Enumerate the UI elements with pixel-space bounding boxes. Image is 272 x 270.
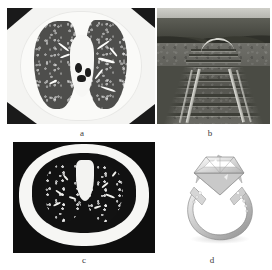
thorax-outline <box>19 144 150 246</box>
ct-corner-bottom-right <box>129 104 155 124</box>
lung-field-background <box>32 153 137 233</box>
ct-corner-top-right <box>131 8 155 28</box>
airway-bronchus-2 <box>85 68 92 77</box>
panel-label-b: b <box>188 128 232 138</box>
pave-stone <box>196 196 199 199</box>
airway-bronchus-3 <box>77 75 85 83</box>
panel-d-ring-photo <box>172 143 268 253</box>
diamond-ring-illustration <box>172 143 268 253</box>
ct-corner-bottom-left <box>7 102 37 124</box>
airway-bronchus-1 <box>75 63 82 73</box>
panel-label-c: c <box>62 255 106 265</box>
pave-stone <box>199 192 202 195</box>
pave-stone <box>246 210 248 212</box>
rail-sleeper <box>189 54 239 56</box>
thorax-outline <box>20 11 141 120</box>
ct-corner-top-left <box>7 8 33 30</box>
panel-b-railway-photo <box>157 8 270 124</box>
panel-label-d: d <box>190 255 234 265</box>
pave-stone <box>243 200 246 203</box>
panel-c-ct-scan <box>13 142 155 253</box>
diamond-pavilion <box>194 173 244 195</box>
panel-label-a: a <box>60 128 104 138</box>
pave-stone <box>193 201 196 204</box>
pave-stone <box>237 192 240 195</box>
rail-sleeper <box>186 60 240 62</box>
pave-stone <box>245 205 248 208</box>
pave-stone <box>240 196 243 199</box>
track-ballast <box>157 43 270 124</box>
figure-sheet: a b c d <box>0 0 272 270</box>
panel-a-ct-scan <box>7 8 155 124</box>
